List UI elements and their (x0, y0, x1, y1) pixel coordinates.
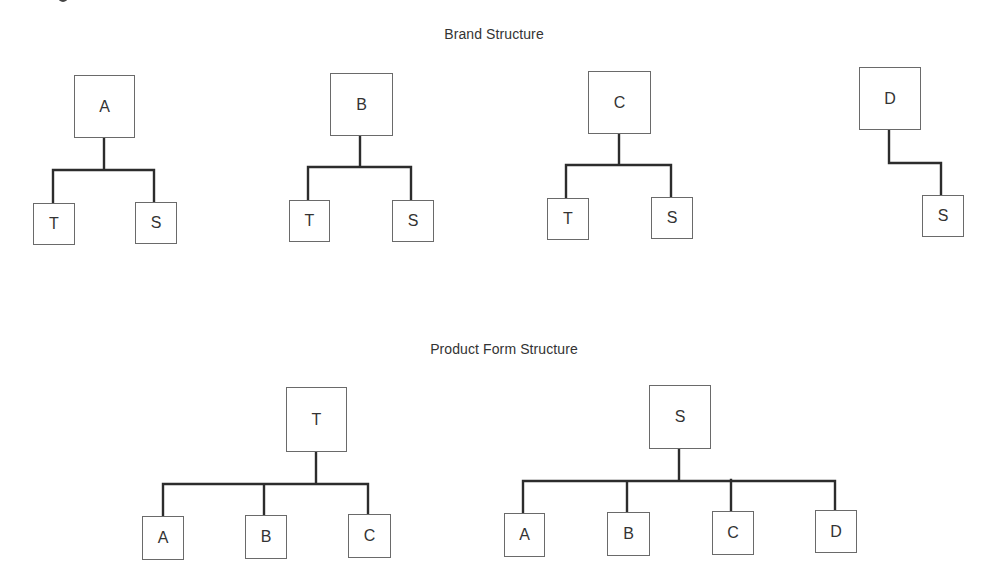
brand-c-child-s-box: S (651, 197, 693, 239)
connector-brand-a (53, 138, 154, 203)
connector-brand-b (308, 136, 411, 200)
connector-product-s (523, 449, 835, 513)
brand-a-child-s-box: S (135, 202, 177, 244)
brand-c-root-box: C (588, 71, 651, 134)
brand-a-root-box: A (74, 75, 135, 138)
connector-lines (0, 0, 986, 582)
product-t-child-b-box: B (245, 515, 287, 559)
brand-b-child-t-box: T (289, 200, 330, 242)
product-s-root-box: S (649, 385, 711, 449)
product-s-child-b-box: B (607, 512, 650, 556)
brand-d-child-s-box: S (922, 195, 964, 237)
brand-a-child-t-box: T (33, 203, 75, 245)
product-s-child-c-box: C (712, 511, 754, 555)
brand-b-root-box: B (330, 73, 393, 136)
connector-brand-c (566, 134, 671, 198)
brand-b-child-s-box: S (392, 200, 434, 242)
product-t-child-a-box: A (142, 516, 184, 560)
product-s-child-a-box: A (504, 513, 545, 557)
brand-d-root-box: D (859, 67, 921, 130)
product-t-root-box: T (286, 387, 347, 452)
brand-c-child-t-box: T (547, 198, 589, 240)
connector-product-t (163, 452, 368, 516)
connector-brand-d (889, 130, 941, 195)
product-s-child-d-box: D (815, 510, 857, 553)
product-t-child-c-box: C (348, 514, 391, 558)
